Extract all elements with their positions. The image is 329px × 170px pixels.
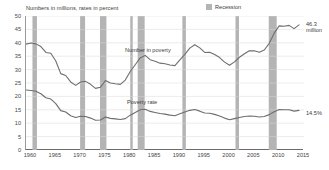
y-tick-label: 35	[15, 53, 21, 59]
y-tick-label: 40	[15, 40, 21, 46]
y-tick-label: 25	[15, 80, 21, 86]
y-tick-label: 15	[15, 107, 21, 113]
x-tick-label: 2010	[272, 152, 284, 158]
series-line	[26, 90, 299, 120]
y-tick-label: 5	[18, 134, 21, 140]
y-tick-label: 10	[15, 120, 21, 126]
end-label-poverty-rate: 14.5%	[306, 110, 322, 116]
x-tick-label: 1985	[148, 152, 160, 158]
x-tick-label: 1960	[24, 152, 36, 158]
grid-lines	[26, 16, 304, 137]
x-tick-label: 1995	[197, 152, 209, 158]
series-label-poverty-rate: Poverty rate	[127, 99, 157, 105]
x-tick-label: 1965	[49, 152, 61, 158]
x-axis-labels: 1960196519701975198019851990199520002005…	[25, 152, 303, 164]
plot-svg	[26, 16, 304, 150]
y-tick-label: 0	[18, 147, 21, 153]
y-tick-label: 45	[15, 26, 21, 32]
x-tick-label: 1980	[123, 152, 135, 158]
chart-legend: Recession	[206, 4, 241, 10]
plot-area	[25, 16, 303, 150]
x-tick-label: 2000	[222, 152, 234, 158]
x-tick-label: 1990	[173, 152, 185, 158]
y-axis-labels: 05101520253035404550	[0, 16, 23, 150]
x-tick-label: 1975	[98, 152, 110, 158]
legend-label-recession: Recession	[215, 4, 241, 10]
x-tick-label: 2015	[297, 152, 309, 158]
end-label-number-in-poverty: 46.3 million	[306, 21, 329, 34]
y-tick-label: 30	[15, 67, 21, 73]
x-tick-label: 1970	[73, 152, 85, 158]
x-tick-label: 2005	[247, 152, 259, 158]
chart-subtitle: Numbers in millions, rates in percent	[26, 5, 118, 11]
series-lines	[26, 25, 299, 120]
y-tick-label: 20	[15, 93, 21, 99]
recession-swatch-icon	[206, 4, 212, 10]
poverty-chart-figure: Numbers in millions, rates in percent Re…	[0, 0, 329, 170]
series-line	[26, 25, 299, 89]
y-tick-label: 50	[15, 13, 21, 19]
series-label-number-in-poverty: Number in poverty	[125, 47, 171, 53]
